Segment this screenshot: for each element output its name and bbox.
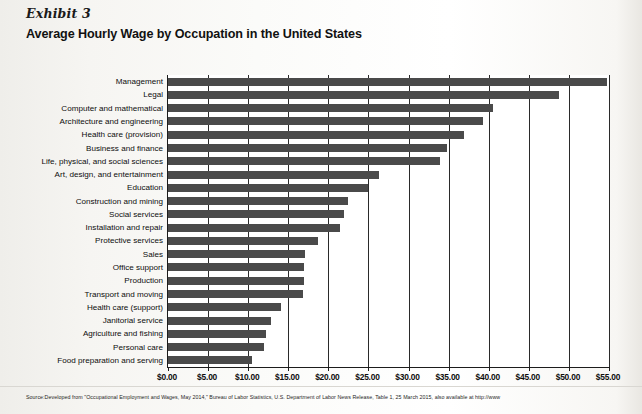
x-axis-tick (489, 367, 490, 371)
bar (168, 317, 271, 325)
gridline (569, 75, 570, 367)
category-label: Sales (0, 250, 163, 259)
bar (168, 144, 447, 152)
plot-area (167, 75, 609, 368)
chart-title: Average Hourly Wage by Occupation in the… (26, 27, 626, 41)
gridline (529, 75, 530, 367)
x-axis-tick (569, 367, 570, 371)
category-label: Social services (0, 210, 163, 219)
x-axis-tick (168, 367, 169, 371)
x-axis-tick (328, 367, 329, 371)
x-axis-tick-label: $10.00 (235, 372, 259, 382)
category-label: Business and finance (0, 144, 163, 153)
category-label: Legal (0, 90, 163, 99)
bar (168, 91, 559, 99)
bar (168, 210, 344, 218)
bar (168, 224, 340, 232)
exhibit-header: Exhibit 3 Average Hourly Wage by Occupat… (26, 6, 626, 41)
category-label: Food preparation and serving (0, 356, 163, 365)
bar (168, 303, 281, 311)
category-label: Health care (support) (0, 303, 163, 312)
x-axis-tick-label: $30.00 (395, 372, 419, 382)
x-axis-tick-label: $25.00 (355, 372, 379, 382)
category-label: Transport and moving (0, 290, 163, 299)
x-axis-tick (529, 367, 530, 371)
category-axis: ManagementLegalComputer and mathematical… (0, 75, 163, 367)
category-label: Protective services (0, 236, 163, 245)
bar (168, 263, 304, 271)
category-label: Computer and mathematical (0, 104, 163, 113)
x-axis-tick-label: $20.00 (315, 372, 339, 382)
category-label: Production (0, 276, 163, 285)
bar (168, 131, 464, 139)
category-label: Art, design, and entertainment (0, 170, 163, 179)
bar (168, 250, 305, 258)
bar (168, 343, 264, 351)
category-label: Architecture and engineering (0, 117, 163, 126)
bar (168, 237, 318, 245)
x-axis-labels: $0.00$5.00$10.00$15.00$20.00$25.00$30.00… (167, 372, 608, 386)
x-axis-tick (248, 367, 249, 371)
category-label: Installation and repair (0, 223, 163, 232)
bar (168, 104, 493, 112)
x-axis-tick-label: $50.00 (556, 372, 580, 382)
bar (168, 117, 483, 125)
category-label: Education (0, 183, 163, 192)
gridline (609, 75, 610, 367)
gridline (489, 75, 490, 367)
source-note: Source:Developed from "Occupational Empl… (26, 394, 626, 401)
category-label: Office support (0, 263, 163, 272)
bar-chart: ManagementLegalComputer and mathematical… (0, 66, 642, 386)
bar (168, 356, 252, 364)
x-axis-tick-label: $15.00 (275, 372, 299, 382)
category-label: Construction and mining (0, 197, 163, 206)
bar (168, 277, 304, 285)
x-axis-tick (609, 367, 610, 371)
category-label: Health care (provision) (0, 130, 163, 139)
bar (168, 290, 303, 298)
exhibit-label: Exhibit 3 (26, 6, 626, 21)
x-axis-tick-label: $5.00 (197, 372, 217, 382)
x-axis-tick-label: $55.00 (596, 372, 620, 382)
bar (168, 157, 440, 165)
category-label: Personal care (0, 343, 163, 352)
x-axis-tick (449, 367, 450, 371)
x-axis-tick (368, 367, 369, 371)
bar (168, 197, 348, 205)
x-axis-tick-label: $45.00 (516, 372, 540, 382)
bar (168, 330, 266, 338)
exhibit-page: Exhibit 3 Average Hourly Wage by Occupat… (0, 0, 642, 414)
bar (168, 184, 368, 192)
x-axis-tick-label: $40.00 (476, 372, 500, 382)
category-label: Life, physical, and social sciences (0, 157, 163, 166)
category-label: Agriculture and fishing (0, 329, 163, 338)
x-axis-tick (409, 367, 410, 371)
category-label: Management (0, 77, 163, 86)
bar (168, 171, 379, 179)
x-axis-tick (288, 367, 289, 371)
x-axis-tick (208, 367, 209, 371)
source-divider (0, 386, 642, 387)
x-axis-tick-label: $0.00 (157, 372, 177, 382)
category-label: Janitorial service (0, 316, 163, 325)
x-axis-tick-label: $35.00 (435, 372, 459, 382)
bar (168, 78, 607, 86)
